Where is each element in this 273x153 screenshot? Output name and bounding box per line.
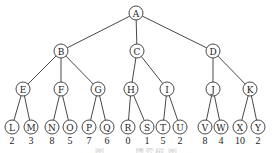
- leaf-value-v: 8: [203, 135, 208, 146]
- node-b: B: [54, 44, 68, 58]
- edge-g-p: [91, 96, 97, 120]
- leaf-value-w: 4: [219, 135, 224, 146]
- node-r: R: [121, 120, 135, 134]
- node-label: K: [247, 85, 254, 95]
- leaf-value-p: 7: [87, 135, 92, 146]
- leaf-value-y: 2: [256, 135, 261, 146]
- node-label: T: [160, 123, 166, 133]
- node-label: C: [134, 47, 141, 57]
- leaf-value-o: 5: [68, 135, 73, 146]
- node-h: H: [124, 82, 138, 96]
- node-label: E: [20, 85, 27, 95]
- node-k: K: [243, 82, 257, 96]
- node-label: M: [26, 123, 35, 133]
- leaf-value-t: 5: [161, 135, 166, 146]
- node-y: Y: [251, 120, 265, 134]
- node-label: U: [176, 123, 184, 133]
- node-label: J: [210, 85, 215, 95]
- edge-a-c: [136, 20, 137, 44]
- edge-c-h: [132, 58, 136, 82]
- edge-a-b: [67, 16, 130, 48]
- tree-edges: [14, 16, 257, 120]
- leaf-value-u: 2: [178, 135, 183, 146]
- node-label: R: [125, 123, 132, 133]
- node-o: O: [63, 120, 77, 134]
- node-p: P: [82, 120, 96, 134]
- node-label: A: [132, 9, 140, 19]
- node-d: D: [206, 44, 220, 58]
- node-s: S: [140, 120, 154, 134]
- node-label: W: [216, 123, 226, 133]
- node-label: Q: [103, 123, 110, 133]
- leaf-value-q: 6: [105, 135, 110, 146]
- node-label: F: [58, 85, 64, 95]
- node-label: X: [237, 123, 244, 133]
- leaf-value-s: 1: [145, 135, 150, 146]
- node-label: Y: [254, 123, 262, 133]
- node-x: X: [233, 120, 247, 134]
- node-g: G: [91, 82, 105, 96]
- edge-i-t: [164, 96, 167, 120]
- node-label: L: [9, 123, 15, 133]
- node-m: M: [24, 120, 38, 134]
- leaf-value-x: 10: [235, 135, 245, 146]
- node-label: H: [127, 85, 135, 95]
- edge-j-v: [206, 96, 211, 120]
- node-label: V: [201, 123, 209, 133]
- node-i: I: [160, 82, 174, 96]
- node-t: T: [156, 120, 170, 134]
- node-label: P: [86, 123, 92, 133]
- edge-e-m: [24, 96, 29, 120]
- figure-caption: 图 — — 博弈树 图: [95, 148, 190, 153]
- edge-f-o: [63, 96, 69, 120]
- node-u: U: [173, 120, 187, 134]
- node-n: N: [45, 120, 59, 134]
- node-label: G: [94, 85, 101, 95]
- edge-e-l: [14, 96, 21, 121]
- node-j: J: [206, 82, 220, 96]
- edge-g-q: [100, 96, 106, 120]
- leaf-value-r: 0: [126, 135, 131, 146]
- edge-b-g: [66, 56, 93, 84]
- tree-nodes: ABCDEFGHIJKLMNOPQRSTUVWXY: [5, 6, 265, 134]
- node-l: L: [5, 120, 19, 134]
- edge-k-y: [251, 96, 256, 120]
- node-v: V: [198, 120, 212, 134]
- edge-d-k: [218, 56, 245, 84]
- leaf-value-n: 8: [50, 135, 55, 146]
- leaf-values: 238576015284102: [10, 135, 261, 146]
- node-label: S: [144, 123, 150, 133]
- node-label: O: [66, 123, 73, 133]
- node-label: I: [165, 85, 169, 95]
- node-f: F: [54, 82, 68, 96]
- edge-j-w: [214, 96, 219, 120]
- node-c: C: [130, 44, 144, 58]
- node-e: E: [16, 82, 30, 96]
- edge-i-u: [169, 96, 177, 121]
- edge-c-i: [141, 56, 162, 83]
- game-tree-diagram: ABCDEFGHIJKLMNOPQRSTUVWXY 23857601528410…: [0, 0, 273, 153]
- edge-k-x: [242, 96, 248, 120]
- node-label: D: [209, 47, 216, 57]
- node-label: B: [58, 47, 65, 57]
- edge-a-d: [142, 16, 206, 48]
- node-label: N: [48, 123, 56, 133]
- node-q: Q: [100, 120, 114, 134]
- node-a: A: [129, 6, 143, 20]
- edge-h-s: [134, 95, 145, 120]
- edge-f-n: [54, 96, 60, 120]
- node-w: W: [214, 120, 228, 134]
- edge-b-e: [28, 56, 56, 84]
- edge-h-r: [129, 96, 131, 120]
- leaf-value-m: 3: [29, 135, 34, 146]
- leaf-value-l: 2: [10, 135, 15, 146]
